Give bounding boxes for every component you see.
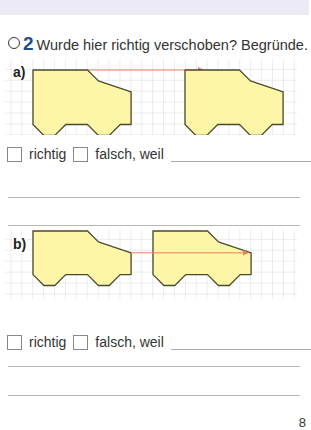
difficulty-circle-icon [8,37,20,49]
option-richtig-b: richtig [29,334,66,350]
checkbox-falsch-b[interactable] [73,335,88,350]
answer-line-a-1[interactable] [171,147,311,162]
checkbox-falsch-a[interactable] [73,147,88,162]
answer-line-b-1[interactable] [171,335,311,350]
task-number: 2 [23,33,34,54]
part-b-label: b) [12,236,27,252]
option-falsch-b: falsch, weil [95,334,163,350]
answer-row-b: richtig falsch, weil [7,334,311,350]
top-band [0,0,309,15]
page-number: 8 [299,415,306,430]
grid-part-a [0,59,309,135]
checkbox-richtig-a[interactable] [7,147,22,162]
grid-part-b [0,229,309,299]
answer-row-a: richtig falsch, weil [7,146,311,162]
answer-line-b-3[interactable] [8,395,300,396]
part-a-label: a) [12,64,26,80]
answer-line-a-3[interactable] [8,225,300,226]
option-richtig-a: richtig [29,146,66,162]
option-falsch-a: falsch, weil [95,146,163,162]
checkbox-richtig-b[interactable] [7,335,22,350]
task-heading: 2Wurde hier richtig verschoben? Begründe… [8,33,308,55]
task-instruction: Wurde hier richtig verschoben? Begründe. [37,37,308,53]
answer-line-b-2[interactable] [8,366,300,367]
answer-line-a-2[interactable] [8,197,300,198]
